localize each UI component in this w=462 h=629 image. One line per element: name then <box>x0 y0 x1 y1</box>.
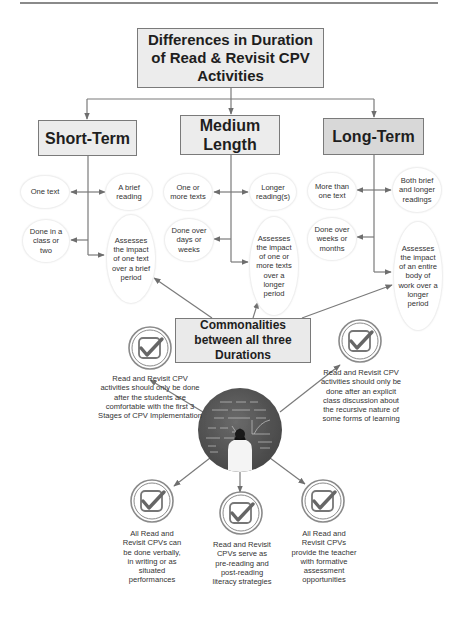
short-term-timeframe: Done in a class or two <box>22 219 70 263</box>
commonality-note-lower-right: All Read and Revisit CPVs provide the te… <box>290 529 358 585</box>
category-short-term: Short-Term <box>38 120 137 156</box>
commonality-note-upper-left: Read and Revisit CPV activities should o… <box>98 374 202 420</box>
medium-assessment: Assesses the impact of one or more texts… <box>249 216 299 316</box>
checkmark-icon <box>218 490 264 536</box>
checkmark-icon <box>300 478 346 524</box>
short-term-reading-length: A brief reading <box>105 173 153 211</box>
category-medium-length: Medium Length <box>180 115 280 155</box>
checkmark-icon <box>129 478 175 524</box>
long-term-reading-length: Both brief and longer readings <box>392 167 442 213</box>
short-term-text-count: One text <box>20 175 70 209</box>
long-term-text-count: More than one text <box>307 172 357 210</box>
chalkboard-student-image <box>198 388 282 472</box>
long-term-assessment: Assesses the impact of an entire body of… <box>393 221 443 331</box>
diagram-title: Differences in Duration of Read & Revisi… <box>137 28 324 88</box>
category-long-term: Long-Term <box>323 118 424 155</box>
medium-text-count: One or more texts <box>163 173 213 211</box>
long-term-timeframe: Done over weeks or months <box>307 217 357 261</box>
commonality-note-lower-center: Read and Revisit CPVs serve as pre-readi… <box>211 540 273 586</box>
checkmark-icon <box>127 325 173 371</box>
commonality-note-upper-right: Read and Revisit CPV activities should o… <box>318 368 404 424</box>
medium-reading-length: Longer reading(s) <box>249 173 297 211</box>
short-term-assessment: Assesses the impact of one text over a b… <box>106 214 156 304</box>
commonality-note-lower-left: All Read and Revisit CPVs can be done ve… <box>120 529 184 585</box>
medium-timeframe: Done over days or weeks <box>164 218 214 262</box>
checkmark-icon <box>337 318 383 364</box>
commonalities-title: Commonalities between all three Duration… <box>175 318 311 363</box>
